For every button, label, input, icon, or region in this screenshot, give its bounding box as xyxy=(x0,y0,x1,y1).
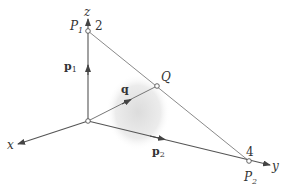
p2-point xyxy=(247,159,252,164)
p2-label: P2 xyxy=(243,170,257,186)
x-axis-label: x xyxy=(7,138,14,152)
p2-vector-label: p2 xyxy=(152,145,165,159)
x-axis xyxy=(18,121,88,144)
weighted-points-diagram: z y x P1 2 P2 4 Q p1 p2 q xyxy=(0,0,289,186)
z-axis-label: z xyxy=(83,5,91,19)
q-vector-label: q xyxy=(121,83,129,96)
q-point-label: Q xyxy=(161,70,171,84)
p1-point xyxy=(86,29,91,34)
p1-weight: 2 xyxy=(95,19,103,33)
q-point xyxy=(155,84,160,89)
y-axis-label: y xyxy=(271,159,279,173)
p1-label: P1 xyxy=(69,19,83,35)
p1-vector-label: p1 xyxy=(64,60,77,74)
origin-point xyxy=(86,119,91,124)
p2-weight: 4 xyxy=(246,145,254,159)
y-axis xyxy=(88,121,270,165)
